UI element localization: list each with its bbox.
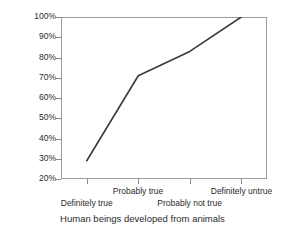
y-tick-label: 60% [22,92,56,102]
y-tick-label: 40% [22,133,56,143]
x-tick-mark [190,179,191,184]
y-tick-label: 100% [22,11,56,21]
x-tick-label: Definitely untrue [211,186,272,196]
x-tick-label: Probably true [113,186,164,196]
y-tick-label: 90% [22,31,56,41]
y-tick-label: 80% [22,52,56,62]
cumulative-percent-polyline [87,17,242,161]
y-tick-label: 30% [22,153,56,163]
x-tick-label: Definitely true [61,198,113,208]
x-tick-label: Probably not true [157,198,222,208]
y-axis-tick-labels: 20%30%40%50%60%70%80%90%100% [22,0,56,234]
x-tick-mark [87,179,88,184]
cumulative-percent-line-chart: Cumulative Percent 20%30%40%50%60%70%80%… [0,0,285,234]
x-axis-title: Human beings developed from animals [0,213,285,224]
y-tick-mark [56,179,61,180]
y-tick-label: 20% [22,173,56,183]
x-tick-mark [241,179,242,184]
x-tick-mark [138,179,139,184]
y-tick-label: 50% [22,112,56,122]
data-series-line [61,17,267,179]
y-tick-label: 70% [22,72,56,82]
